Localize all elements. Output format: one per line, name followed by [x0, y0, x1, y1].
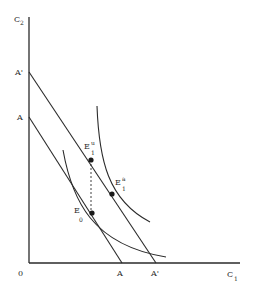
point-e1u	[88, 157, 93, 162]
x-intercept-a: A	[116, 269, 123, 278]
label-e1u: E	[84, 142, 90, 151]
budget-line-a-prime	[29, 72, 156, 263]
y-intercept-a-prime: A'	[14, 68, 23, 77]
label-e1a-sup: a	[122, 175, 126, 182]
origin-label: 0	[18, 269, 23, 278]
label-e0-sub: 0	[79, 216, 83, 223]
point-e0	[89, 210, 94, 215]
y-axis-label-sub: 2	[20, 19, 24, 26]
indifference-curve-lower	[63, 150, 166, 257]
label-e0: E	[74, 206, 80, 215]
x-intercept-a-prime: A'	[150, 269, 159, 278]
label-e1u-sup: u	[91, 139, 95, 146]
point-e1a	[109, 191, 114, 196]
x-axis-label-sub: 1	[234, 275, 238, 282]
indifference-curve-diagram: C 2 C 1 0 A' A A A' E u 1 E a 1 E 0	[0, 0, 253, 293]
y-intercept-a: A	[16, 113, 23, 122]
x-axis-label: C	[227, 270, 233, 279]
label-e1a-sub: 1	[122, 185, 126, 192]
label-e1u-sub: 1	[91, 149, 95, 156]
indifference-curve-upper	[97, 106, 150, 222]
label-e1a: E	[115, 178, 121, 187]
